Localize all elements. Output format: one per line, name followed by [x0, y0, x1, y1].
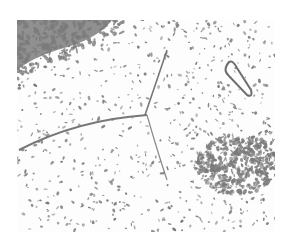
speckle-field: [17, 20, 275, 232]
micrograph-image: [17, 20, 275, 232]
